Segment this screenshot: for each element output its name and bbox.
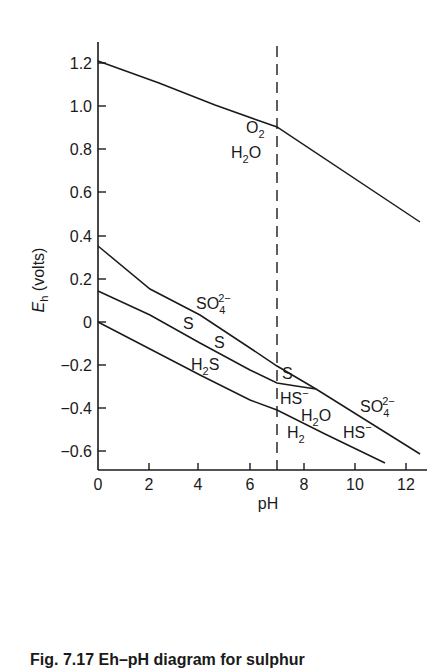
x-tick-label: 0: [94, 476, 103, 493]
y-axis-title: Eh (volts): [30, 248, 50, 313]
x-tick-label: 4: [194, 476, 203, 493]
x-axis-title: pH: [258, 495, 278, 512]
o2-h2o-line: [98, 61, 420, 222]
x-tick-label: 12: [397, 476, 415, 493]
label-h2: H2: [287, 424, 305, 445]
x-tick-label: 6: [246, 476, 255, 493]
figure-caption: Fig. 7.17 Eh–pH diagram for sulphur: [30, 651, 305, 668]
svg-text:Eh (volts): Eh (volts): [30, 248, 50, 313]
label-h2o-top: H2O: [231, 144, 261, 165]
y-tick-label: 0.4: [70, 228, 92, 245]
label-hs-1: HS−: [280, 387, 309, 407]
y-tick-label: 0.6: [70, 184, 92, 201]
x-tick-labels: 0 2 4 6 8 10 12: [94, 476, 415, 493]
y-tick-label: 0.2: [70, 271, 92, 288]
x-tick-label: 2: [145, 476, 154, 493]
label-s-3: S: [282, 365, 293, 382]
y-tick-label: 1.0: [70, 98, 92, 115]
label-s-1: S: [183, 315, 194, 332]
y-tick-label: 0: [83, 314, 92, 331]
y-tick-label: 1.2: [70, 55, 92, 72]
eh-ph-chart: 1.2 1.0 0.8 0.6 0.4 0.2 0 −0.2 −0.4 −0.6…: [0, 0, 448, 668]
y-tick-label: 0.8: [70, 141, 92, 158]
y-tick-labels: 1.2 1.0 0.8 0.6 0.4 0.2 0 −0.2 −0.4 −0.6: [60, 55, 92, 460]
label-so4-left: SO42−: [196, 292, 231, 316]
label-s-2: S: [214, 334, 225, 351]
x-tick-label: 8: [300, 476, 309, 493]
so4-s-line: [98, 246, 420, 454]
x-tick-label: 10: [346, 476, 364, 493]
y-ticks: [98, 63, 106, 451]
label-h2s: H2S: [191, 356, 219, 377]
label-so4-right: SO42−: [360, 395, 395, 419]
y-tick-label: −0.2: [60, 357, 92, 374]
y-tick-label: −0.4: [60, 400, 92, 417]
label-hs-2: HS−: [343, 421, 372, 441]
y-tick-label: −0.6: [60, 443, 92, 460]
